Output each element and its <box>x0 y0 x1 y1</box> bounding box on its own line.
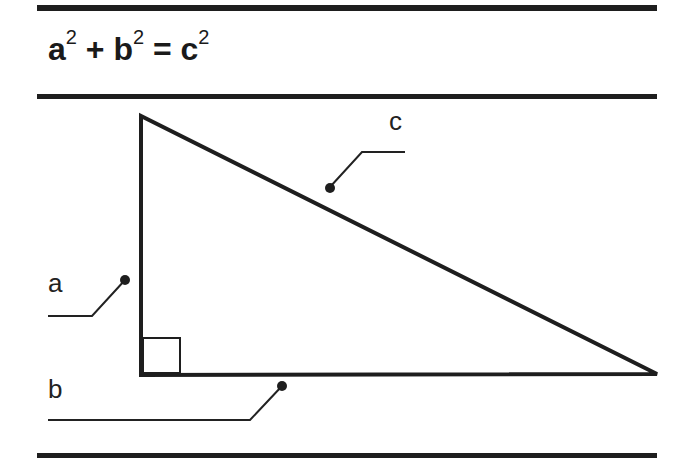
bottom-rule <box>37 453 657 458</box>
leader-dot-c <box>325 183 335 193</box>
right-angle-marker <box>143 338 180 373</box>
right-triangle-diagram <box>0 0 684 470</box>
label-b: b <box>48 374 62 405</box>
leader-line-b <box>48 386 282 420</box>
triangle-shape <box>141 116 657 375</box>
leader-dot-b <box>277 381 287 391</box>
leader-dot-a <box>120 275 130 285</box>
label-c: c <box>389 106 402 137</box>
label-a: a <box>48 268 62 299</box>
leader-line-c <box>330 152 405 187</box>
